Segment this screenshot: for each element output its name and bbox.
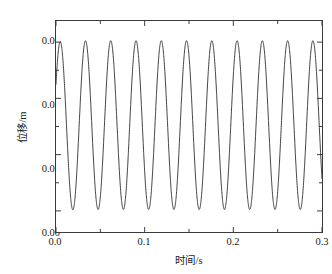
data-series-displacement bbox=[56, 41, 322, 210]
x-axis-title: 时间/s bbox=[175, 252, 202, 267]
x-tick-label-0: 0.0 bbox=[48, 237, 61, 248]
x-tick-label-2: 0.2 bbox=[226, 237, 239, 248]
x-tick-label-3: 0.3 bbox=[315, 237, 328, 248]
x-tick-label-1: 0.1 bbox=[137, 237, 150, 248]
chart-figure: 位移/m 0.00 0.02 0.04 0.06 0.0 0.1 0.2 0.3… bbox=[0, 0, 332, 274]
plot-svg bbox=[56, 21, 322, 232]
plot-area bbox=[55, 20, 323, 233]
y-axis-title: 位移/m bbox=[14, 111, 29, 142]
